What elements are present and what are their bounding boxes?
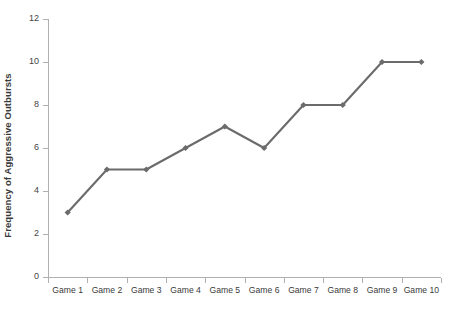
y-axis-tick: 10: [43, 62, 48, 63]
x-axis-tick: [127, 278, 128, 283]
x-axis-category-label: Game 3: [131, 285, 162, 295]
y-axis-title: Frequency of Aggressive Outbursts: [22, 0, 44, 311]
x-axis-tick: [245, 278, 246, 283]
y-axis-tick-label: 6: [34, 142, 39, 152]
y-axis-tick-label: 12: [29, 13, 39, 23]
x-axis-tick: [166, 278, 167, 283]
x-axis-category-label: Game 2: [92, 285, 123, 295]
y-axis-title-label: Frequency of Aggressive Outbursts: [2, 73, 13, 237]
x-axis-category-label: Game 5: [210, 285, 241, 295]
y-axis-tick-label: 4: [34, 185, 39, 195]
data-point-marker: [65, 209, 71, 215]
y-axis-tick-label: 2: [34, 228, 39, 238]
x-axis-tick: [362, 278, 363, 283]
y-axis-line: [48, 19, 49, 278]
x-axis-category-label: Game 9: [367, 285, 398, 295]
line-chart: Frequency of Aggressive Outbursts 024681…: [0, 0, 460, 311]
series-plot: [0, 0, 460, 311]
x-axis-tick: [87, 278, 88, 283]
y-axis-tick: 12: [43, 19, 48, 20]
y-axis-tick: 4: [43, 191, 48, 192]
x-axis-category-label: Game 1: [52, 285, 83, 295]
x-axis-tick: [284, 278, 285, 283]
x-axis-category-label: Game 7: [288, 285, 319, 295]
x-axis-tick: [323, 278, 324, 283]
x-axis-category-label: Game 4: [170, 285, 201, 295]
data-point-marker: [340, 102, 346, 108]
x-axis-tick: [402, 278, 403, 283]
data-point-marker: [300, 102, 306, 108]
y-axis-tick: 6: [43, 148, 48, 149]
y-axis-tick: 2: [43, 234, 48, 235]
y-axis-tick-label: 10: [29, 56, 39, 66]
x-axis-category-label: Game 10: [404, 285, 439, 295]
data-point-marker: [222, 123, 228, 129]
series-line: [68, 62, 422, 213]
x-axis-category-label: Game 8: [327, 285, 358, 295]
y-axis-tick: 8: [43, 105, 48, 106]
x-axis-category-label: Game 6: [249, 285, 280, 295]
series-markers: [65, 59, 425, 216]
x-axis-tick: [48, 278, 49, 283]
x-axis-tick: [441, 278, 442, 283]
data-point-marker: [143, 166, 149, 172]
y-axis-tick-label: 0: [34, 271, 39, 281]
data-point-marker: [261, 145, 267, 151]
x-axis-tick: [205, 278, 206, 283]
y-axis-tick-label: 8: [34, 99, 39, 109]
data-point-marker: [104, 166, 110, 172]
data-point-marker: [379, 59, 385, 65]
data-point-marker: [182, 145, 188, 151]
data-point-marker: [418, 59, 424, 65]
